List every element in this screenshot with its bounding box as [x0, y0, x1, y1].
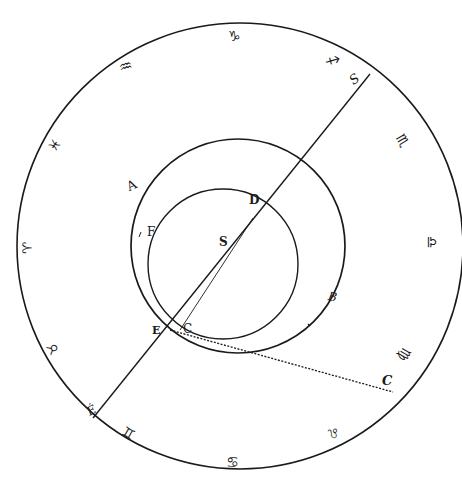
- zodiac-sagittarius-icon: ♐: [323, 51, 342, 71]
- zodiac-libra-icon: ♎: [424, 236, 440, 249]
- zodiac-capricorn-icon: ♑: [228, 28, 241, 44]
- zodiac-cancer-icon: ♋: [226, 454, 239, 470]
- label-s-center: S: [219, 235, 228, 249]
- dotted-line-e-c: [170, 330, 393, 392]
- outer-zodiac-circle: [17, 23, 462, 469]
- zodiac-scorpio-icon: ♏: [393, 131, 413, 150]
- label-a: A: [123, 176, 139, 194]
- zodiac-leo-icon: ♌: [324, 423, 343, 443]
- label-s-prime: S: [346, 70, 362, 87]
- label-b: B: [326, 289, 338, 305]
- orbit-diagram: S A B D F S E C É C ♑ ♒ ♓ ♈ ♉ ♊ ♋ ♌ ♍ ♎ …: [0, 0, 462, 487]
- zodiac-pisces-icon: ♓: [45, 136, 64, 154]
- main-axis-line: [93, 74, 370, 418]
- zodiac-aries-icon: ♈: [20, 242, 35, 254]
- zodiac-gemini-icon: ♊: [119, 423, 138, 443]
- zodiac-aquarius-icon: ♒: [117, 56, 135, 77]
- zodiac-taurus-icon: ♉: [44, 340, 63, 358]
- label-c-prime: C: [382, 373, 393, 388]
- label-f: F: [147, 225, 155, 239]
- chord-line-d-c: [180, 218, 253, 330]
- label-c: C: [183, 322, 192, 336]
- label-d: D: [249, 193, 259, 207]
- middle-orbit-circle: [131, 139, 345, 353]
- tick-mark-f: [139, 232, 141, 237]
- zodiac-virgo-icon: ♍: [394, 345, 414, 364]
- label-e: E: [152, 324, 160, 337]
